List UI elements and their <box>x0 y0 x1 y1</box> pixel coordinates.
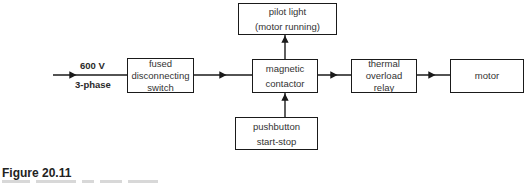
block-label: contactor <box>265 76 304 91</box>
block-label: thermal <box>368 58 400 70</box>
block-label: disconnecting <box>131 70 189 82</box>
block-label: fused <box>149 58 172 70</box>
block-label: overload <box>366 70 402 82</box>
block-label: start-stop <box>257 134 297 149</box>
magnetic-contactor-block: magnetic contactor <box>252 59 318 93</box>
pushbutton-start-stop-block: pushbutton start-stop <box>235 117 318 150</box>
figure-title: Figure 20.11 <box>2 166 71 180</box>
block-label: motor <box>475 70 499 82</box>
pilot-light-block: pilot light (motor running) <box>238 3 337 35</box>
block-label: (motor running) <box>255 19 320 34</box>
fused-disconnecting-switch-block: fused disconnecting switch <box>127 58 194 93</box>
block-label: pushbutton <box>253 119 300 134</box>
figure-caption-cut-off <box>2 180 192 184</box>
thermal-overload-relay-block: thermal overload relay <box>351 59 417 93</box>
motor-block: motor <box>450 59 524 93</box>
block-label: switch <box>147 82 173 94</box>
input-voltage-label: 600 V <box>80 60 105 71</box>
block-label: magnetic <box>266 61 305 76</box>
input-phase-label: 3-phase <box>75 79 111 90</box>
block-label: relay <box>374 82 395 94</box>
block-label: pilot light <box>269 4 307 19</box>
